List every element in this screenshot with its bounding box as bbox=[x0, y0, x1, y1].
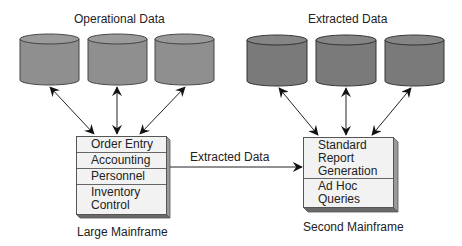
mainframe-row-standard-report-generation: Standard Report Generation bbox=[304, 138, 393, 179]
second-mainframe-box: Standard Report Generation Ad Hoc Querie… bbox=[303, 137, 394, 208]
left-connector-arrows bbox=[50, 87, 185, 134]
second-mainframe-label: Second Mainframe bbox=[303, 220, 404, 234]
operational-data-cylinder-1 bbox=[20, 34, 79, 85]
large-mainframe-box: Order Entry Accounting Personnel Invento… bbox=[76, 136, 167, 215]
mainframe-row-personnel: Personnel bbox=[77, 169, 166, 185]
mainframe-row-accounting: Accounting bbox=[77, 153, 166, 169]
operational-data-cylinder-3 bbox=[155, 34, 214, 85]
large-mainframe-label: Large Mainframe bbox=[77, 225, 168, 239]
extracted-data-cylinder-2 bbox=[316, 35, 376, 86]
operational-data-title: Operational Data bbox=[74, 12, 165, 26]
diagram-canvas bbox=[0, 0, 462, 246]
right-connector-arrows bbox=[279, 88, 411, 135]
mainframe-row-inventory-control: Inventory Control bbox=[77, 185, 166, 214]
operational-data-cylinder-2 bbox=[88, 34, 147, 85]
extracted-data-cylinder-3 bbox=[385, 35, 444, 86]
mainframe-row-order-entry: Order Entry bbox=[77, 137, 166, 153]
extracted-data-title: Extracted Data bbox=[308, 12, 387, 26]
extracted-data-cylinder-1 bbox=[247, 35, 307, 86]
extracted-data-flow-label: Extracted Data bbox=[190, 150, 269, 164]
mainframe-row-ad-hoc-queries: Ad Hoc Queries bbox=[304, 179, 393, 207]
